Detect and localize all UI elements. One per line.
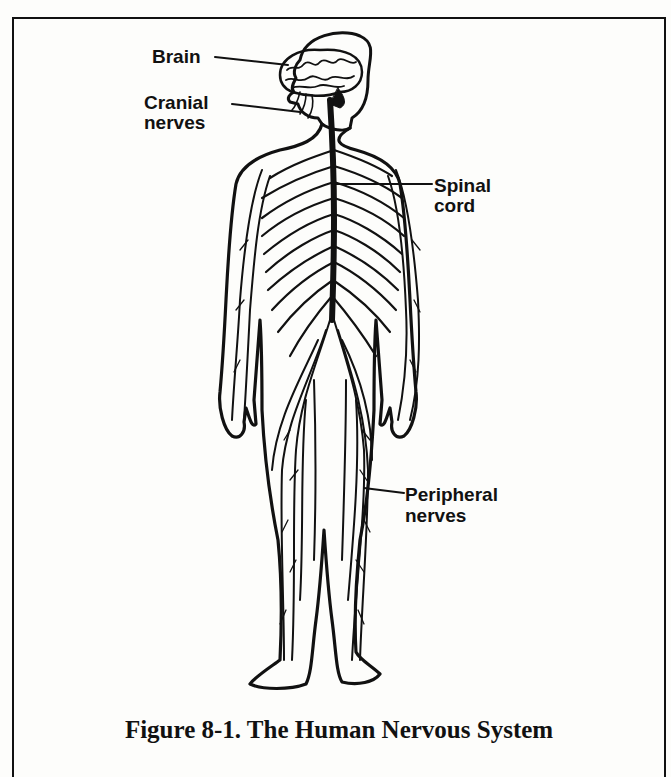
brain-label: Brain: [152, 47, 201, 66]
peripheral-nerves-label-line1: Peripheral: [405, 485, 498, 504]
spinal-cord-label-line1: Spinal: [434, 176, 491, 195]
figure-caption: Figure 8-1. The Human Nervous System: [12, 716, 666, 744]
cranial-nerves-label-line2: nerves: [144, 113, 205, 132]
peripheral-nerves-label-line2: nerves: [405, 506, 466, 525]
spinal-cord-label-line2: cord: [434, 196, 475, 215]
body-outline: [220, 124, 417, 689]
peripheral-nerves-leader-line: [364, 488, 404, 493]
spinal-cord: [330, 100, 334, 320]
cranial-nerves-leader-line: [232, 104, 300, 112]
cranial-nerves-label-line1: Cranial: [144, 93, 208, 112]
brain-leader-line: [215, 57, 288, 65]
